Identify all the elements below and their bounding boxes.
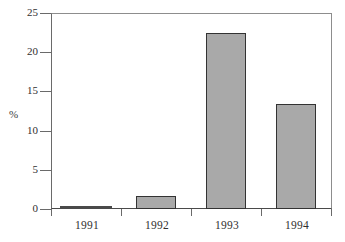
y-tick-mark-5 <box>40 170 51 171</box>
x-tick-label-1994: 1994 <box>285 219 309 232</box>
y-tick-mark-20 <box>40 52 51 53</box>
y-tick-mark-10 <box>40 131 51 132</box>
y-tick-label-5: 5 <box>33 164 39 175</box>
x-tick-label-1993: 1993 <box>215 219 239 232</box>
y-tick-label-20: 20 <box>27 46 38 57</box>
bar-chart: % 25 20 15 10 5 0 1991 1992 1993 1994 <box>0 0 345 242</box>
y-axis-title: % <box>9 108 18 120</box>
y-tick-mark-25 <box>40 13 51 14</box>
bar-1992 <box>136 196 176 209</box>
x-tick-mark-3 <box>261 209 262 216</box>
bar-1994 <box>276 104 316 209</box>
x-tick-label-1992: 1992 <box>145 219 169 232</box>
y-tick-label-25: 25 <box>27 7 38 18</box>
y-tick-label-10: 10 <box>27 125 38 136</box>
x-tick-mark-2 <box>191 209 192 216</box>
y-tick-label-0: 0 <box>33 203 39 214</box>
x-tick-mark-0 <box>51 209 52 216</box>
x-tick-mark-1 <box>121 209 122 216</box>
x-tick-mark-4 <box>331 209 332 216</box>
y-tick-mark-0 <box>40 209 51 210</box>
y-axis: % 25 20 15 10 5 0 <box>0 0 51 242</box>
y-tick-mark-15 <box>40 91 51 92</box>
y-tick-label-15: 15 <box>27 85 38 96</box>
bar-1993 <box>206 33 246 209</box>
x-tick-label-1991: 1991 <box>75 219 99 232</box>
bar-1991 <box>60 206 112 209</box>
